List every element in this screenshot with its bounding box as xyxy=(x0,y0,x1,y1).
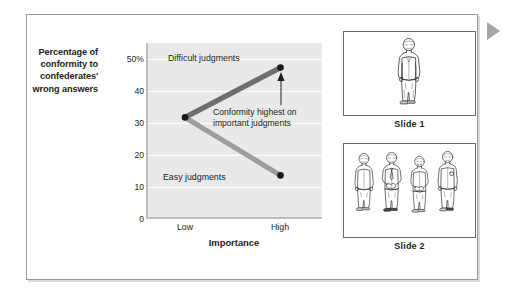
person-1 xyxy=(355,153,373,210)
conformity-line-chart: Percentage of conformity to confederates… xyxy=(0,0,336,266)
chart-series-layer xyxy=(0,0,336,266)
data-point-low xyxy=(182,114,189,121)
figure-root: Percentage of conformity to confederates… xyxy=(0,0,507,291)
four-standing-men-line-drawing xyxy=(344,144,475,237)
slide-1-image xyxy=(343,31,476,116)
series-line-difficult-judgments xyxy=(185,68,281,118)
series-line-easy-judgments xyxy=(185,117,281,175)
data-point-high-difficult xyxy=(277,64,284,71)
slide-2-caption: Slide 2 xyxy=(343,241,476,251)
triangle-right-icon xyxy=(487,22,500,40)
one-standing-man-line-drawing xyxy=(344,32,475,115)
data-point-high-easy xyxy=(277,172,284,179)
slide-1-caption: Slide 1 xyxy=(343,119,476,129)
person-3 xyxy=(411,156,428,212)
person-2 xyxy=(382,152,401,211)
person-4 xyxy=(438,151,457,210)
slide-2-image xyxy=(343,143,476,238)
callout-arrow-icon xyxy=(277,72,284,81)
